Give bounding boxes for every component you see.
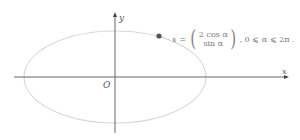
y-axis-arrow-icon bbox=[113, 12, 117, 17]
x-axis-label: x bbox=[282, 68, 287, 76]
y-axis-label: y bbox=[119, 14, 124, 23]
point-leader-line bbox=[162, 37, 170, 40]
formula-bottom-entry: sin α bbox=[203, 39, 223, 48]
formula-top-entry: 2 cos α bbox=[199, 30, 228, 39]
diagram-canvas bbox=[0, 0, 300, 140]
left-paren-icon: ( bbox=[191, 28, 197, 50]
formula-domain: , 0 ⩽ α ⩽ 2π . bbox=[239, 35, 294, 44]
formula-equals: = bbox=[180, 35, 187, 44]
formula-lhs: x bbox=[172, 35, 177, 44]
right-paren-icon: ) bbox=[230, 28, 236, 50]
point-marker bbox=[156, 33, 161, 38]
parametric-formula: x = ( 2 cos α sin α ) , 0 ⩽ α ⩽ 2π . bbox=[172, 28, 295, 50]
formula-vector: 2 cos α sin α bbox=[198, 30, 229, 48]
origin-label: O bbox=[103, 81, 110, 90]
